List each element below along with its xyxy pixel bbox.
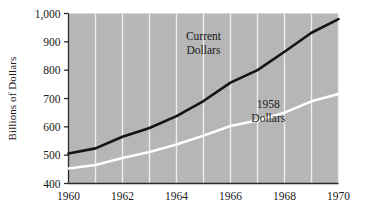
y-tick-label: 800 bbox=[43, 64, 61, 76]
y-tick-label: 1,000 bbox=[35, 8, 61, 21]
annotation-current-dollars-line2: Dollars bbox=[187, 44, 221, 56]
x-tick-label: 1960 bbox=[57, 190, 80, 202]
y-tick-label: 900 bbox=[43, 36, 61, 48]
y-tick-label: 600 bbox=[43, 121, 61, 133]
y-axis-ticks: 4005006007008009001,000 bbox=[35, 8, 69, 190]
y-tick-label: 400 bbox=[43, 178, 61, 190]
line-chart: 4005006007008009001,00019601962196419661… bbox=[0, 0, 368, 215]
annotation-current-dollars-line1: Current bbox=[186, 30, 222, 42]
x-tick-label: 1962 bbox=[111, 190, 134, 202]
y-tick-label: 700 bbox=[43, 93, 61, 105]
x-axis-ticks: 196019621964196619681970 bbox=[57, 190, 350, 202]
annotation-1958-dollars-line1: 1958 bbox=[257, 98, 280, 110]
x-tick-label: 1964 bbox=[165, 190, 188, 202]
chart-container: 4005006007008009001,00019601962196419661… bbox=[0, 0, 368, 215]
annotation-1958-dollars-line2: Dollars bbox=[251, 112, 285, 124]
x-tick-label: 1966 bbox=[219, 190, 242, 202]
y-axis-title: Billions of Dollars bbox=[6, 57, 18, 141]
y-tick-label: 500 bbox=[43, 149, 61, 161]
x-tick-label: 1970 bbox=[327, 190, 350, 202]
x-tick-label: 1968 bbox=[273, 190, 296, 202]
